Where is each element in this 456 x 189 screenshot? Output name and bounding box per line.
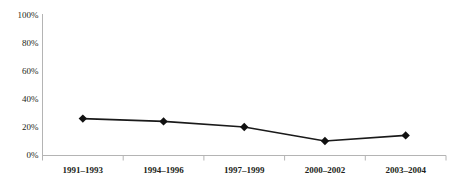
chart-canvas	[0, 0, 456, 189]
line-chart: 0%20%40%60%80%100% 1991–19931994–1996199…	[0, 0, 456, 189]
y-axis-tick-label: 20%	[22, 122, 39, 132]
axes	[42, 14, 446, 156]
data-point-marker	[401, 131, 409, 139]
y-axis-tick-label: 100%	[18, 10, 39, 20]
y-axis-tick-label: 0%	[27, 150, 39, 160]
y-axis-tick-label: 80%	[22, 38, 39, 48]
data-point-marker	[159, 117, 167, 125]
y-axis-tick-label: 40%	[22, 94, 39, 104]
x-axis-tick-label: 2003–2004	[385, 165, 426, 175]
x-axis-ticks	[43, 156, 447, 161]
y-axis-tick-label: 60%	[22, 66, 39, 76]
data-point-marker	[240, 123, 248, 131]
x-axis-tick-label: 1994–1996	[143, 165, 184, 175]
data-point-marker	[321, 137, 329, 145]
x-axis-tick-label: 1991–1993	[63, 165, 104, 175]
x-axis-tick-label: 1997–1999	[224, 165, 265, 175]
series-markers	[79, 114, 410, 145]
data-point-marker	[79, 114, 87, 122]
x-axis-tick-label: 2000–2002	[305, 165, 346, 175]
